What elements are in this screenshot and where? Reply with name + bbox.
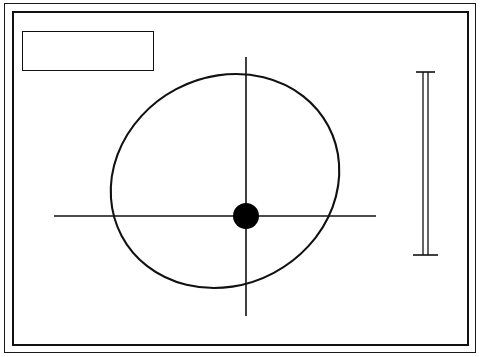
primary-star-marker <box>233 203 259 229</box>
scale-bar <box>413 72 438 255</box>
title-box <box>22 31 154 71</box>
orbit-ellipse <box>73 34 377 328</box>
orbit-figure <box>0 0 482 357</box>
